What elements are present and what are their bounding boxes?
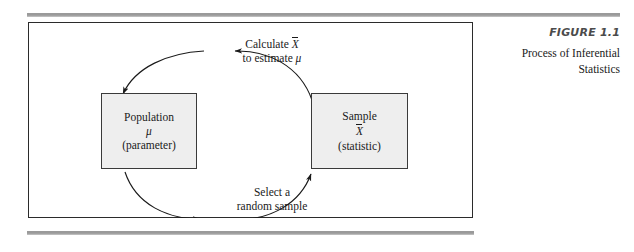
node-population-title: Population: [124, 110, 174, 124]
label-calculate-line1: Calculate X: [213, 36, 331, 51]
label-estimate-prefix: to estimate: [243, 52, 296, 64]
top-rule: [27, 13, 620, 17]
node-sample-symbol: X: [356, 123, 363, 138]
figure-caption-label: FIGURE 1.1: [489, 26, 620, 39]
label-calculate-line2: to estimate μ: [213, 51, 331, 65]
node-population: Population μ (parameter): [101, 93, 197, 169]
figure-caption-description-line2: Statistics: [489, 62, 620, 78]
node-population-symbol: μ: [146, 124, 152, 138]
label-select-line1: Select a: [213, 185, 331, 199]
node-sample-symbol-wrap: X: [356, 123, 363, 138]
label-estimate-mu-symbol: μ: [296, 52, 302, 64]
figure-caption: FIGURE 1.1 Process of Inferential Statis…: [489, 26, 620, 77]
label-calculate-estimate: Calculate X to estimate μ: [213, 36, 331, 66]
figure-page: Population μ (parameter) Sample X (stati…: [0, 0, 634, 252]
node-population-subtitle: (parameter): [122, 138, 176, 152]
node-sample-title: Sample: [342, 109, 377, 123]
arc-label-to-population: [123, 51, 204, 94]
node-sample: Sample X (statistic): [311, 93, 408, 169]
label-select-random-sample: Select a random sample: [213, 185, 331, 214]
label-calculate-prefix: Calculate: [245, 38, 291, 50]
label-select-line2: random sample: [213, 199, 331, 213]
bottom-rule: [27, 231, 474, 235]
label-calculate-xbar-icon: X: [292, 36, 299, 51]
figure-caption-description: Process of Inferential Statistics: [489, 46, 620, 77]
arc-population-to-label: [125, 172, 200, 218]
figure-caption-description-line1: Process of Inferential: [489, 46, 620, 62]
node-sample-subtitle: (statistic): [338, 139, 381, 153]
